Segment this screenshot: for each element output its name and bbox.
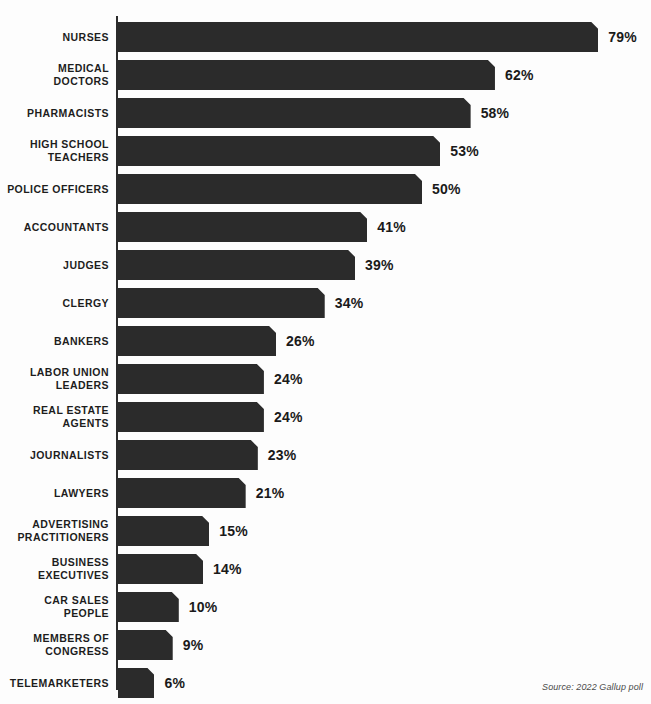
category-label: REAL ESTATE AGENTS: [0, 404, 109, 430]
bar: [118, 516, 209, 546]
category-label: LAWYERS: [0, 487, 109, 500]
bar: [118, 402, 264, 432]
bar-value-label: 6%: [164, 675, 185, 691]
bar: [118, 212, 367, 242]
bar-value-label: 9%: [183, 637, 204, 653]
bar-value-label: 24%: [274, 409, 303, 425]
source-attribution: Source: 2022 Gallup poll: [542, 682, 643, 692]
category-label: BANKERS: [0, 335, 109, 348]
category-label: MEMBERS OF CONGRESS: [0, 632, 109, 658]
bar-value-label: 23%: [268, 447, 297, 463]
bar-value-label: 41%: [377, 219, 406, 235]
bar-row: CLERGY34%: [0, 288, 651, 318]
bar-row: ADVERTISING PRACTITIONERS15%: [0, 516, 651, 546]
category-label: BUSINESS EXECUTIVES: [0, 556, 109, 582]
bar-row: BANKERS26%: [0, 326, 651, 356]
bar-value-label: 53%: [450, 143, 479, 159]
bar-value-label: 79%: [608, 29, 637, 45]
bar-row: LAWYERS21%: [0, 478, 651, 508]
bar: [118, 440, 258, 470]
bar: [118, 554, 203, 584]
bar: [118, 98, 471, 128]
bar-value-label: 62%: [505, 67, 534, 83]
bar: [118, 668, 154, 698]
category-label: POLICE OFFICERS: [0, 183, 109, 196]
bar-row: JUDGES39%: [0, 250, 651, 280]
bar: [118, 364, 264, 394]
bar-row: REAL ESTATE AGENTS24%: [0, 402, 651, 432]
chart-container: Honest and ethical NURSES79%MEDICAL DOCT…: [0, 0, 651, 704]
bar: [118, 592, 179, 622]
bar-row: MEDICAL DOCTORS62%: [0, 60, 651, 90]
category-label: PHARMACISTS: [0, 107, 109, 120]
category-label: ACCOUNTANTS: [0, 221, 109, 234]
bar: [118, 60, 495, 90]
bar-value-label: 15%: [219, 523, 248, 539]
bar: [118, 174, 422, 204]
category-label: CAR SALES PEOPLE: [0, 594, 109, 620]
bar-value-label: 14%: [213, 561, 242, 577]
bar-row: JOURNALISTS23%: [0, 440, 651, 470]
plot-area: NURSES79%MEDICAL DOCTORS62%PHARMACISTS58…: [0, 16, 651, 676]
bar-row: HIGH SCHOOL TEACHERS53%: [0, 136, 651, 166]
bar-row: POLICE OFFICERS50%: [0, 174, 651, 204]
bar: [118, 22, 598, 52]
bar-row: ACCOUNTANTS41%: [0, 212, 651, 242]
bar-row: CAR SALES PEOPLE10%: [0, 592, 651, 622]
category-label: JUDGES: [0, 259, 109, 272]
category-label: ADVERTISING PRACTITIONERS: [0, 518, 109, 544]
bar-value-label: 21%: [256, 485, 285, 501]
bar: [118, 136, 440, 166]
bar: [118, 250, 355, 280]
bar-value-label: 10%: [189, 599, 218, 615]
bar-row: PHARMACISTS58%: [0, 98, 651, 128]
category-label: CLERGY: [0, 297, 109, 310]
bar: [118, 630, 173, 660]
bar-value-label: 50%: [432, 181, 461, 197]
bar-value-label: 39%: [365, 257, 394, 273]
bar-row: MEMBERS OF CONGRESS9%: [0, 630, 651, 660]
bar-value-label: 34%: [335, 295, 364, 311]
bar: [118, 478, 246, 508]
category-label: JOURNALISTS: [0, 449, 109, 462]
bar-value-label: 26%: [286, 333, 315, 349]
bar: [118, 288, 325, 318]
category-label: HIGH SCHOOL TEACHERS: [0, 138, 109, 164]
category-label: NURSES: [0, 31, 109, 44]
bar-row: NURSES79%: [0, 22, 651, 52]
category-label: MEDICAL DOCTORS: [0, 62, 109, 88]
bar-row: BUSINESS EXECUTIVES14%: [0, 554, 651, 584]
bar-row: LABOR UNION LEADERS24%: [0, 364, 651, 394]
bar-value-label: 24%: [274, 371, 303, 387]
category-label: LABOR UNION LEADERS: [0, 366, 109, 392]
bar: [118, 326, 276, 356]
category-label: TELEMARKETERS: [0, 677, 109, 690]
bar-value-label: 58%: [481, 105, 510, 121]
